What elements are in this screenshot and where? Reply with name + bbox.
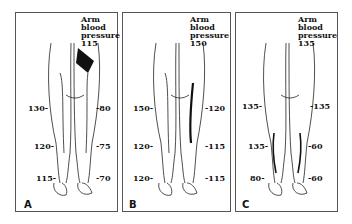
arm-bp-value: 150 <box>190 39 229 47</box>
left-ankle-pressure: 120- <box>133 173 153 183</box>
right-thigh-pressure: -135 <box>310 101 330 111</box>
left-ankle-pressure: 80- <box>250 173 264 183</box>
right-calf-pressure: -60 <box>308 141 322 151</box>
left-calf-pressure: 120- <box>133 141 153 151</box>
right-calf-pressure: -75 <box>96 141 110 151</box>
left-calf-pressure: 135- <box>248 141 268 151</box>
left-thigh-pressure: 135- <box>242 101 262 111</box>
arm-bp-value: 135 <box>298 39 337 47</box>
panel-b: Arm blood pressure 150 150- 120- 120- -1… <box>122 12 231 212</box>
left-thigh-pressure: 150- <box>133 103 153 113</box>
right-thigh-pressure: -80 <box>96 103 110 113</box>
arm-bp-label-a: Arm blood pressure 115 <box>81 15 120 47</box>
left-thigh-pressure: 130- <box>28 103 48 113</box>
panel-letter: A <box>24 199 32 210</box>
arm-bp-label-c: Arm blood pressure 135 <box>298 15 337 47</box>
panel-a: Arm blood pressure 115 130- 120- 115- -8… <box>15 12 118 212</box>
panel-letter: C <box>242 199 249 210</box>
panel-c: Arm blood pressure 135 135- 135- 80- -13… <box>235 12 338 212</box>
right-ankle-pressure: -70 <box>96 173 110 183</box>
panel-letter: B <box>129 199 137 210</box>
left-ankle-pressure: 115- <box>36 173 56 183</box>
arm-bp-value: 115 <box>81 39 120 47</box>
left-calf-pressure: 120- <box>34 141 54 151</box>
arm-bp-label-b: Arm blood pressure 150 <box>190 15 229 47</box>
right-ankle-pressure: -115 <box>205 173 225 183</box>
right-ankle-pressure: -60 <box>308 173 322 183</box>
right-thigh-pressure: -120 <box>205 103 225 113</box>
right-calf-pressure: -115 <box>205 141 225 151</box>
